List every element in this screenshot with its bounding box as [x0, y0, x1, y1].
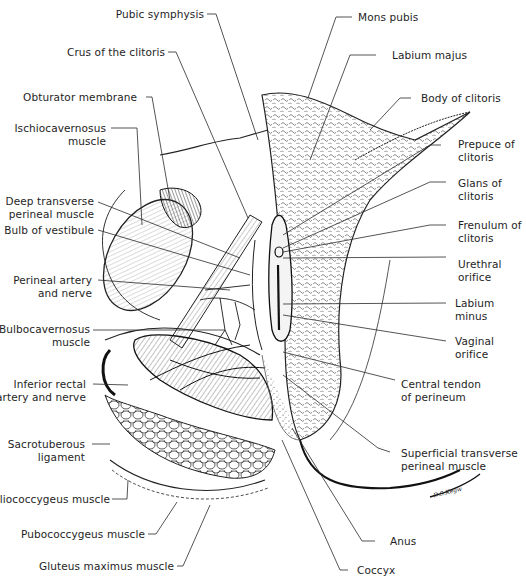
label-bulb-of-vestibule: Bulb of vestibule	[4, 224, 94, 237]
anatomy-figure: Pubic symphysis Crus of the clitoris Obt…	[0, 0, 526, 584]
label-labium-minus: Labium minus	[455, 297, 494, 323]
label-obturator-membrane: Obturator membrane	[23, 91, 137, 104]
label-vaginal-orifice: Vaginal orifice	[455, 335, 494, 361]
label-gluteus-maximus-muscle: Gluteus maximus muscle	[39, 560, 174, 573]
label-central-tendon-of-perineum: Central tendon of perineum	[401, 378, 481, 404]
label-urethral-orifice: Urethral orifice	[458, 258, 501, 284]
label-crus-of-clitoris: Crus of the clitoris	[67, 46, 165, 59]
label-frenulum-of-clitoris: Frenulum of clitoris	[458, 219, 522, 245]
pelvis-outline	[160, 130, 268, 155]
label-deep-transverse-perineal-muscle: Deep transverse perineal muscle	[6, 195, 94, 221]
label-coccyx: Coccyx	[357, 564, 395, 577]
label-iliococcygeus-muscle: Iliococcygeus muscle	[0, 493, 110, 506]
label-glans-of-clitoris: Glans of clitoris	[458, 177, 502, 203]
label-mons-pubis: Mons pubis	[358, 11, 418, 24]
label-superficial-transverse-perineal-muscle: Superficial transverse perineal muscle	[401, 447, 518, 473]
label-prepuce-of-clitoris: Prepuce of clitoris	[458, 138, 515, 164]
label-sacrotuberous-ligament: Sacrotuberous ligament	[8, 438, 85, 464]
label-labium-majus: Labium majus	[392, 49, 467, 62]
label-pubic-symphysis: Pubic symphysis	[116, 8, 204, 21]
label-anus: Anus	[390, 535, 416, 548]
vaginal-orifice-shape	[278, 265, 279, 330]
label-inferior-rectal-artery-and-nerve: Inferior rectal artery and nerve	[0, 378, 86, 404]
label-ischiocavernosus-muscle: Ischiocavernosus muscle	[14, 122, 106, 148]
label-perineal-artery-and-nerve: Perineal artery and nerve	[13, 274, 92, 300]
label-pubococcygeus-muscle: Pubococcygeus muscle	[21, 528, 145, 541]
label-bulbocavernosus-muscle: Bulbocavernosus muscle	[0, 323, 90, 349]
label-body-of-clitoris: Body of clitoris	[421, 92, 501, 105]
